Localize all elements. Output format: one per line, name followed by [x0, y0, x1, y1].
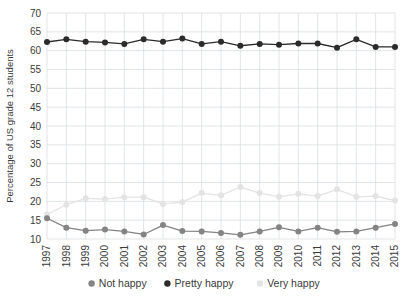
data-point [353, 194, 359, 200]
data-point [334, 229, 340, 235]
y-tick-label: 40 [30, 121, 42, 132]
x-tick-label-2001: 2001 [119, 245, 130, 268]
data-point [63, 36, 69, 42]
data-point [218, 230, 224, 236]
data-point [160, 222, 166, 228]
y-tick-label: 35 [30, 139, 42, 150]
y-tick-label: 65 [30, 26, 42, 37]
data-point [276, 224, 282, 230]
data-point [179, 36, 185, 42]
data-point [237, 43, 243, 49]
x-tick-label-2010: 2010 [293, 245, 304, 268]
data-point [315, 41, 321, 47]
data-point [237, 232, 243, 238]
data-point [102, 227, 108, 233]
data-point [141, 36, 147, 42]
x-tick-label-1999: 1999 [80, 245, 91, 268]
data-point [257, 228, 263, 234]
data-point [373, 193, 379, 199]
y-tick-label: 20 [30, 196, 42, 207]
y-tick-label: 15 [30, 215, 42, 226]
data-point [315, 225, 321, 231]
x-axis-tick-labels: 1997199819992000200120022003200420052006… [41, 245, 400, 268]
data-point [83, 39, 89, 45]
x-tick-label-2007: 2007 [235, 245, 246, 268]
data-point [257, 190, 263, 196]
data-point [102, 39, 108, 45]
x-tick-label-2006: 2006 [215, 245, 226, 268]
legend-item-very-happy[interactable]: Very happy [257, 277, 321, 289]
data-point [392, 221, 398, 227]
data-point [276, 194, 282, 200]
data-point [102, 196, 108, 202]
data-point [334, 45, 340, 51]
data-point [218, 192, 224, 198]
data-point [392, 44, 398, 50]
data-point [315, 193, 321, 199]
x-tick-label-2009: 2009 [273, 245, 284, 268]
x-tick-label-2005: 2005 [196, 245, 207, 268]
x-tick-label-2014: 2014 [370, 245, 381, 268]
y-tick-label: 45 [30, 102, 42, 113]
data-point [276, 42, 282, 48]
legend-label: Pretty happy [175, 277, 235, 289]
x-tick-label-1997: 1997 [41, 245, 52, 268]
data-point [44, 215, 50, 221]
y-tick-label: 55 [30, 64, 42, 75]
data-point [199, 190, 205, 196]
y-axis-tick-labels: 10152025303540455055606570 [30, 8, 42, 245]
x-tick-label-2008: 2008 [254, 245, 265, 268]
happiness-line-chart: 10152025303540455055606570 1997199819992… [0, 0, 407, 299]
data-point [392, 198, 398, 204]
legend-swatch-icon [164, 280, 170, 286]
data-point [199, 41, 205, 47]
data-point [295, 41, 301, 47]
y-axis-title: Percentage of US grade 12 students [4, 49, 15, 203]
data-point [295, 191, 301, 197]
data-point [257, 41, 263, 47]
data-point [334, 186, 340, 192]
y-tick-label: 10 [30, 234, 42, 245]
data-point [141, 194, 147, 200]
data-point [179, 199, 185, 205]
legend-swatch-icon [88, 280, 94, 286]
legend-label: Not happy [99, 277, 148, 289]
data-point [83, 228, 89, 234]
x-tick-label-2012: 2012 [331, 245, 342, 268]
x-tick-label-2015: 2015 [389, 245, 400, 268]
y-tick-label: 70 [30, 8, 42, 19]
legend-label: Very happy [267, 277, 320, 289]
data-point [83, 195, 89, 201]
x-tick-label-2013: 2013 [351, 245, 362, 268]
data-point [160, 39, 166, 45]
data-point [218, 39, 224, 45]
data-point [373, 225, 379, 231]
legend-item-pretty-happy[interactable]: Pretty happy [164, 277, 234, 289]
data-point [179, 228, 185, 234]
data-point [121, 194, 127, 200]
data-point [353, 36, 359, 42]
data-point [199, 228, 205, 234]
x-tick-label-2004: 2004 [177, 245, 188, 268]
data-point [160, 201, 166, 207]
data-point [121, 228, 127, 234]
data-point [373, 44, 379, 50]
x-tick-label-2003: 2003 [157, 245, 168, 268]
x-tick-label-1998: 1998 [61, 245, 72, 268]
data-point [353, 228, 359, 234]
legend-swatch-icon [257, 280, 263, 286]
legend-item-not-happy[interactable]: Not happy [88, 277, 147, 289]
data-point [295, 228, 301, 234]
x-tick-label-2011: 2011 [312, 245, 323, 267]
x-tick-label-2002: 2002 [138, 245, 149, 268]
data-point [44, 39, 50, 45]
data-point [237, 184, 243, 190]
y-tick-label: 60 [30, 45, 42, 56]
y-tick-label: 25 [30, 177, 42, 188]
x-tick-label-2000: 2000 [99, 245, 110, 268]
data-point [141, 231, 147, 237]
data-point [121, 41, 127, 47]
data-point [63, 225, 69, 231]
chart-legend: Not happyPretty happyVery happy [88, 277, 320, 289]
chart-container: 10152025303540455055606570 1997199819992… [0, 0, 407, 299]
